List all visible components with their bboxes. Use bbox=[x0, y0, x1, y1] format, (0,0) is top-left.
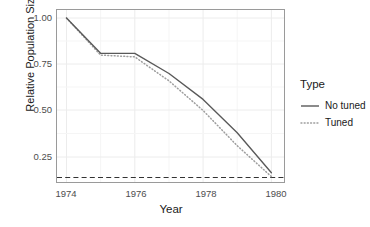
legend-title: Type bbox=[300, 78, 370, 90]
legend-key-solid-line-icon bbox=[300, 99, 320, 113]
x-tick-label: 1974 bbox=[36, 188, 96, 199]
x-tick-label: 1980 bbox=[246, 188, 306, 199]
plot-area bbox=[57, 10, 284, 182]
gridlines bbox=[57, 10, 284, 182]
y-tick-label: 0.50 bbox=[6, 104, 52, 115]
plot-panel bbox=[56, 9, 285, 183]
chart-figure: Relative Population Size 0.25 0.50 0.75 … bbox=[0, 0, 370, 227]
x-axis-tick-labels: 1974 1976 1978 1980 bbox=[0, 188, 370, 202]
x-axis-title: Year bbox=[56, 203, 286, 215]
y-tick-label: 0.25 bbox=[6, 151, 52, 162]
x-tick-label: 1976 bbox=[106, 188, 166, 199]
y-tick-label: 1.00 bbox=[6, 12, 52, 23]
legend-key-dotted-line-icon bbox=[300, 116, 320, 130]
y-tick-label: 0.75 bbox=[6, 58, 52, 69]
legend: Type No tuned Tuned bbox=[300, 78, 370, 131]
x-tick-label: 1978 bbox=[176, 188, 236, 199]
legend-item-label: No tuned bbox=[325, 100, 366, 111]
legend-item-no-tuned: No tuned bbox=[300, 97, 370, 114]
legend-item-label: Tuned bbox=[325, 117, 353, 128]
legend-item-tuned: Tuned bbox=[300, 114, 370, 131]
